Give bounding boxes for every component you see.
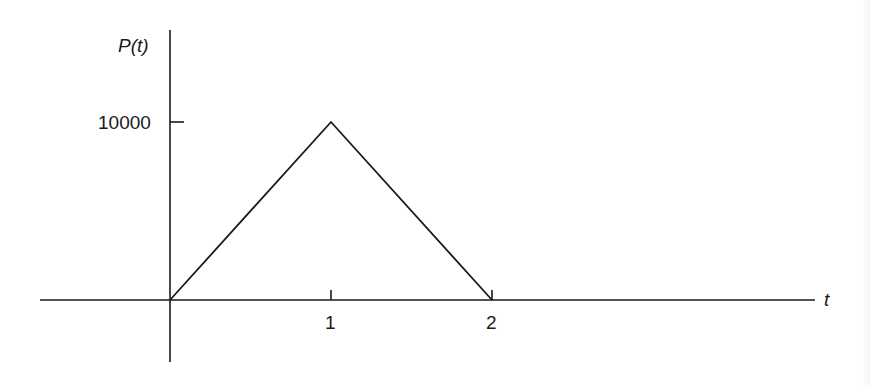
x-axis-label: t — [824, 290, 829, 309]
scan-edge-shadow — [862, 0, 870, 385]
x-tick-label-1: 1 — [325, 313, 336, 332]
x-tick-label-2: 2 — [486, 313, 497, 332]
y-tick-label-10000: 10000 — [98, 113, 151, 132]
chart-canvas — [0, 0, 870, 385]
data-line-p-of-t — [170, 122, 492, 300]
y-axis-label: P(t) — [118, 36, 149, 55]
